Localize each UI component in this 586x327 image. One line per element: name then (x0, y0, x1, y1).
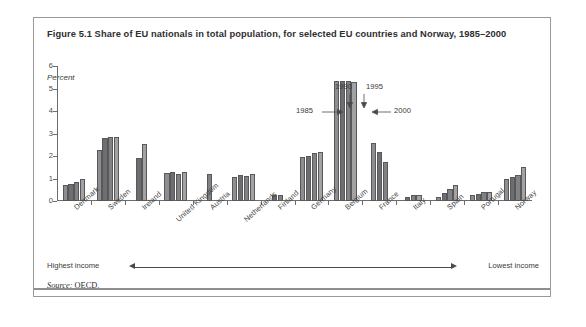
bottom-rule (34, 288, 550, 290)
bar-germany-1995 (312, 153, 317, 201)
bar-sweden-2000 (114, 137, 119, 201)
bar-united-kingdom-1990 (170, 172, 175, 201)
x-axis-category-labels: DenmarkSwedenIrelandUnited KingdomAustri… (57, 203, 532, 263)
bar-germany-1990 (306, 156, 311, 201)
bar-spain-1985 (436, 197, 441, 202)
figure-title: Figure 5.1 Share of EU nationals in tota… (47, 28, 527, 41)
y-axis-tick-label: 0 (42, 197, 53, 205)
bar-belgium-2000 (351, 82, 356, 201)
bar-netherlands-1985 (232, 177, 237, 201)
bar-france-1985 (371, 143, 376, 202)
income-scale-right-label: Lowest income (488, 261, 539, 270)
bar-united-kingdom-1995 (176, 174, 181, 201)
y-axis-line (57, 66, 58, 201)
y-axis-tick (53, 156, 57, 157)
income-scale-left-label: Highest income (47, 261, 99, 270)
bar-belgium-1995 (346, 81, 351, 201)
y-axis-tick (53, 201, 57, 202)
bar-norway-1990 (510, 177, 515, 201)
bar-sweden-1990 (102, 138, 107, 201)
bar-netherlands-1990 (238, 175, 243, 201)
bar-norway-1985 (504, 179, 509, 202)
bar-spain-1990 (442, 193, 447, 201)
bar-denmark-1990 (68, 184, 73, 201)
bar-portugal-1990 (476, 194, 481, 201)
bar-belgium-1990 (340, 81, 345, 201)
y-axis-tick-label: 3 (42, 130, 53, 138)
income-scale-line (135, 267, 451, 268)
y-axis-tick-label: 2 (42, 152, 53, 160)
y-axis-tick (53, 179, 57, 180)
chart-axes: 0123456 (57, 66, 532, 201)
bar-netherlands-2000 (250, 174, 255, 201)
y-axis-tick-label: 5 (42, 85, 53, 93)
income-arrow-right-icon (451, 263, 457, 269)
bar-portugal-1985 (470, 195, 475, 201)
y-axis-tick (53, 66, 57, 67)
bar-france-1990 (377, 152, 382, 202)
bar-denmark-1985 (63, 185, 68, 201)
y-axis-tick (53, 134, 57, 135)
bar-ireland-2000 (142, 144, 147, 201)
bar-italy-1990 (405, 197, 410, 202)
income-scale: Highest income Lowest income (47, 261, 539, 275)
bar-sweden-1995 (108, 137, 113, 201)
y-axis-tick (53, 111, 57, 112)
bar-ireland-1990 (136, 158, 141, 201)
y-axis-tick-label: 6 (42, 62, 53, 70)
y-axis-tick (53, 89, 57, 90)
bar-united-kingdom-1985 (164, 173, 169, 201)
bar-united-kingdom-2000 (182, 172, 187, 201)
bar-netherlands-1995 (244, 176, 249, 201)
y-axis-tick-label: 1 (42, 175, 53, 183)
y-axis-tick-label: 4 (42, 107, 53, 115)
figure-card: Figure 5.1 Share of EU nationals in tota… (33, 17, 551, 297)
chart-plot-area: 0123456 (57, 66, 532, 201)
bar-belgium-1985 (334, 81, 339, 201)
